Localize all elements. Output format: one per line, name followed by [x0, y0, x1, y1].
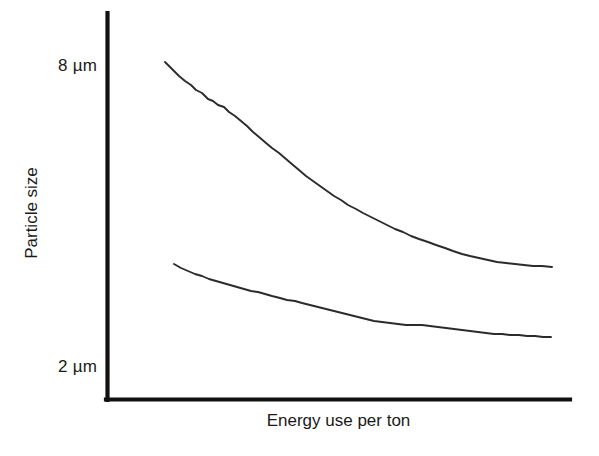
series-line-lower-curve	[174, 264, 551, 337]
series-line-upper-curve	[165, 62, 552, 267]
x-axis-title: Energy use per ton	[107, 411, 570, 431]
chart-container: 8 µm 2 µm Particle size Energy use per t…	[0, 0, 599, 456]
y-axis-title: Particle size	[22, 143, 42, 283]
y-axis-tick-label-top: 8 µm	[58, 56, 97, 76]
y-axis-tick-label-bottom: 2 µm	[58, 357, 97, 377]
